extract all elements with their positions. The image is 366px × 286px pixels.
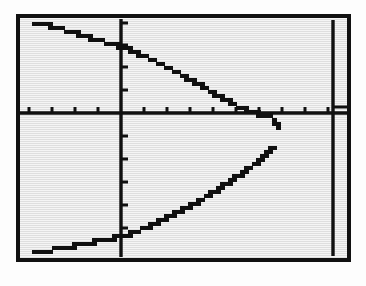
curve-pixel <box>72 246 77 250</box>
calculator-screen-frame <box>16 14 351 262</box>
curve-pixel <box>184 74 189 78</box>
curve-pixel <box>76 30 81 34</box>
curve-pixel <box>100 38 105 42</box>
curve-pixel <box>48 250 53 254</box>
axes-group <box>20 19 347 257</box>
curve-pixel <box>176 70 181 74</box>
curve-pixel <box>244 170 249 174</box>
curve-pixel <box>128 46 133 50</box>
curve-pixel <box>48 22 53 26</box>
curve-pixel <box>60 26 65 30</box>
curve-pixel <box>240 174 245 178</box>
curve-pixel <box>164 218 169 222</box>
curve-pixel <box>268 150 273 154</box>
curve-pixel <box>228 182 233 186</box>
curve-pixel <box>228 98 233 102</box>
curve-pixel <box>260 158 265 162</box>
curve-pixel <box>244 106 249 110</box>
curve-pixel <box>268 114 273 118</box>
curve-pixel <box>128 234 133 238</box>
curve-pixel <box>208 194 213 198</box>
curve-pixel <box>148 226 153 230</box>
curve-pixel <box>152 58 157 62</box>
curve-pixel <box>180 210 185 214</box>
curve-pixel <box>196 202 201 206</box>
curve-pixel <box>160 62 165 66</box>
curve-pixel <box>188 206 193 210</box>
curve-pixel <box>264 154 269 158</box>
screenshot-stage <box>0 0 366 286</box>
curve-pixel <box>216 190 221 194</box>
curve-pixel <box>192 78 197 82</box>
curve-pixel <box>112 238 117 242</box>
curve-pixel <box>156 222 161 226</box>
curve-pixel <box>144 54 149 58</box>
graph-svg <box>20 18 347 258</box>
curve-pixel <box>248 166 253 170</box>
curve-pixel <box>276 122 281 126</box>
curve-pixel <box>276 126 281 130</box>
curve-pixel <box>92 242 97 246</box>
curve-pixel <box>88 34 93 38</box>
curve-pixel <box>172 214 177 218</box>
curve-pixel <box>232 178 237 182</box>
curve-pixel <box>256 162 261 166</box>
curve-pixel <box>204 86 209 90</box>
curve-pixel <box>116 42 121 46</box>
curve-pixel <box>220 94 225 98</box>
curve-pixel <box>168 66 173 70</box>
graph-plot-area <box>20 18 347 258</box>
curve-pixel <box>212 90 217 94</box>
curve-pixel <box>200 198 205 202</box>
curve-pixel <box>256 110 261 114</box>
curve-pixel <box>136 230 141 234</box>
curve-pixel <box>232 102 237 106</box>
curve-pixel <box>136 50 141 54</box>
curve-pixel <box>200 82 205 86</box>
curve-pixel <box>272 146 277 150</box>
curve-lower-branch <box>32 146 277 254</box>
curve-pixel <box>272 118 277 122</box>
curve-pixel <box>220 186 225 190</box>
